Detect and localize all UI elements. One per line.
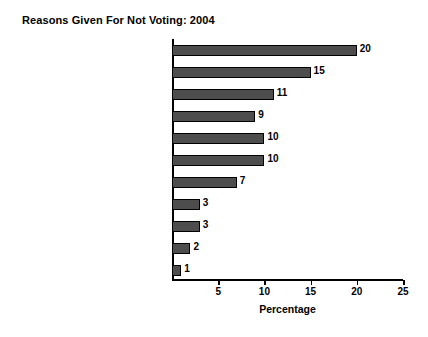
bar xyxy=(172,111,255,122)
x-axis-tick-label: 20 xyxy=(351,286,362,297)
chart-title: Reasons Given For Not Voting: 2004 xyxy=(22,14,215,26)
bar-value-label: 1 xyxy=(184,263,190,274)
bar xyxy=(172,45,357,56)
bar-row: Inconvenient polling place3 xyxy=(172,221,403,232)
bar xyxy=(172,265,181,276)
bar xyxy=(172,243,190,254)
x-axis-tick-label: 10 xyxy=(259,286,270,297)
x-axis-title: Percentage xyxy=(172,303,403,315)
bar-value-label: 11 xyxy=(277,87,288,98)
bar-value-label: 3 xyxy=(203,197,209,208)
bar-value-label: 3 xyxy=(203,219,209,230)
x-axis-tick xyxy=(403,280,405,285)
x-axis-tick xyxy=(311,280,313,285)
plot-area: Too busy20Illness or emergency15Not inte… xyxy=(172,39,403,279)
bar xyxy=(172,67,311,78)
bar-value-label: 10 xyxy=(267,153,278,164)
bar-chart-figure: Reasons Given For Not Voting: 2004 Too b… xyxy=(0,0,428,337)
x-axis-tick-label: 25 xyxy=(397,286,408,297)
bar-value-label: 2 xyxy=(193,241,199,252)
bar-row: Too busy20 xyxy=(172,45,403,56)
bar-value-label: 10 xyxy=(267,131,278,142)
bar xyxy=(172,133,264,144)
bar-row: Not interested11 xyxy=(172,89,403,100)
bar-row: Transportation problem2 xyxy=(172,243,403,254)
x-axis-tick-label: 15 xyxy=(305,286,316,297)
x-axis-tick-label: 5 xyxy=(215,286,221,297)
bar-row: Don't know10 xyxy=(172,155,403,166)
x-axis-tick xyxy=(357,280,359,285)
bar-row: Bad weather1 xyxy=(172,265,403,276)
bar xyxy=(172,221,200,232)
bar-value-label: 20 xyxy=(360,43,371,54)
bar-value-label: 9 xyxy=(258,109,264,120)
x-axis-line xyxy=(172,279,403,281)
bar-row: Illness or emergency15 xyxy=(172,67,403,78)
bar xyxy=(172,155,264,166)
bar-row: Registration problems7 xyxy=(172,177,403,188)
x-axis-tick xyxy=(264,280,266,285)
bar-row: Out of town9 xyxy=(172,111,403,122)
bar xyxy=(172,89,274,100)
bar-value-label: 15 xyxy=(314,65,325,76)
x-axis-tick xyxy=(218,280,220,285)
bar-value-label: 7 xyxy=(240,175,246,186)
bar xyxy=(172,199,200,210)
bar-row: Forgot3 xyxy=(172,199,403,210)
bar-row: Didn't like candidates10 xyxy=(172,133,403,144)
bar xyxy=(172,177,237,188)
